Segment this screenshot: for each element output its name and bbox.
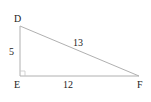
- side-label-df: 13: [73, 37, 83, 48]
- vertex-label-d: D: [14, 13, 21, 24]
- triangle-diagram: D E F 5 13 12: [0, 0, 151, 102]
- triangle-def: [20, 26, 139, 76]
- vertex-label-e: E: [14, 79, 20, 90]
- vertex-label-f: F: [137, 79, 143, 90]
- side-label-ef: 12: [63, 79, 73, 90]
- side-label-de: 5: [9, 46, 14, 57]
- right-angle-marker: [20, 71, 25, 76]
